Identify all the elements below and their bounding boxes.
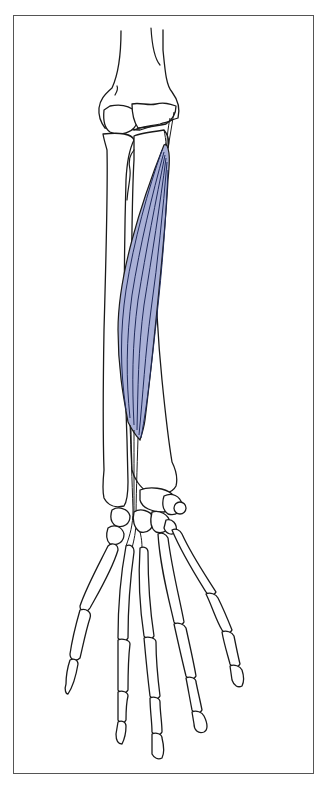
middle-finger <box>139 547 163 759</box>
thumb <box>65 544 118 694</box>
ring-finger <box>158 533 207 732</box>
index-finger <box>116 545 134 744</box>
anatomy-drawing <box>0 0 332 786</box>
anatomy-figure: forearm and hand skeleton (anterior view… <box>0 0 332 786</box>
